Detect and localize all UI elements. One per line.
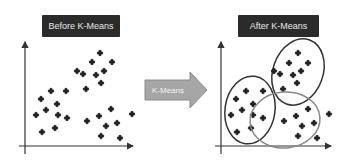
data-point bbox=[305, 60, 310, 65]
data-point bbox=[89, 59, 94, 64]
before-axes bbox=[19, 42, 133, 154]
data-point bbox=[43, 107, 48, 112]
data-point bbox=[260, 88, 265, 93]
data-point bbox=[281, 118, 286, 123]
data-point bbox=[52, 125, 57, 130]
data-point bbox=[80, 71, 85, 76]
data-point bbox=[63, 88, 68, 93]
data-point bbox=[290, 72, 295, 77]
data-point bbox=[84, 118, 89, 123]
data-point bbox=[280, 86, 285, 91]
data-point bbox=[228, 112, 233, 117]
data-point bbox=[311, 120, 316, 125]
data-point bbox=[109, 59, 114, 64]
data-point bbox=[117, 135, 122, 140]
data-point bbox=[54, 101, 59, 106]
data-point bbox=[39, 129, 44, 134]
data-point bbox=[277, 71, 282, 76]
data-point bbox=[74, 68, 79, 73]
data-point bbox=[298, 68, 303, 73]
before-points bbox=[33, 50, 134, 140]
kmeans-diagram bbox=[0, 0, 351, 161]
data-point bbox=[239, 107, 244, 112]
data-point bbox=[233, 96, 238, 101]
data-point bbox=[314, 135, 319, 140]
data-point bbox=[103, 123, 108, 128]
data-point bbox=[295, 50, 300, 55]
cluster-2-ellipse bbox=[221, 73, 280, 147]
data-point bbox=[260, 115, 265, 120]
data-point bbox=[286, 60, 291, 65]
data-point bbox=[295, 133, 300, 138]
data-point bbox=[101, 68, 106, 73]
data-point bbox=[33, 112, 38, 117]
kmeans-arrow-label: K-Means bbox=[146, 82, 190, 98]
data-point bbox=[64, 115, 69, 120]
data-point bbox=[293, 113, 298, 118]
data-point bbox=[55, 112, 60, 117]
data-point bbox=[98, 80, 103, 85]
data-point bbox=[234, 129, 239, 134]
data-point bbox=[114, 120, 119, 125]
after-clusters bbox=[221, 31, 334, 150]
data-point bbox=[299, 123, 304, 128]
data-point bbox=[294, 80, 299, 85]
data-point bbox=[305, 106, 310, 111]
data-point bbox=[243, 88, 248, 93]
data-point bbox=[97, 50, 102, 55]
data-point bbox=[326, 111, 331, 116]
data-point bbox=[98, 133, 103, 138]
data-point bbox=[83, 86, 88, 91]
data-point bbox=[96, 113, 101, 118]
data-point bbox=[108, 106, 113, 111]
data-point bbox=[38, 96, 43, 101]
data-point bbox=[48, 88, 53, 93]
data-point bbox=[93, 72, 98, 77]
data-point bbox=[129, 111, 134, 116]
